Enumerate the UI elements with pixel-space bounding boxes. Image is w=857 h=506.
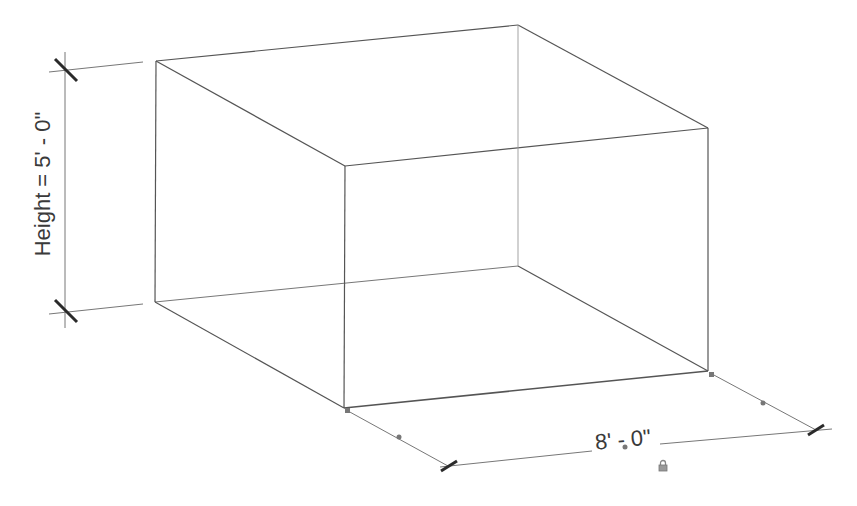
edge-vertical-back-left[interactable]: [155, 61, 156, 302]
grip-dot-icon[interactable]: [709, 372, 714, 377]
width-tick-left: [441, 461, 457, 471]
width-dimension-line-left[interactable]: [440, 451, 592, 467]
width-dimension-label[interactable]: 8' - 0": [594, 424, 652, 454]
drawing-canvas[interactable]: Height = 5' - 0" 8' - 0": [0, 0, 857, 506]
edge-bottom-front[interactable]: [344, 371, 708, 408]
edge-top-right[interactable]: [518, 25, 708, 128]
edge-bottom-left[interactable]: [155, 302, 344, 408]
edge-vertical-front-left[interactable]: [344, 166, 345, 408]
edge-top-front[interactable]: [345, 128, 708, 166]
width-dimension[interactable]: 8' - 0": [348, 374, 832, 471]
text-grip-dot-icon[interactable]: [623, 445, 628, 450]
grip-dot-icon[interactable]: [345, 408, 350, 413]
grip-dot-icon[interactable]: [397, 435, 402, 440]
height-dimension[interactable]: Height = 5' - 0": [30, 52, 143, 328]
edge-top-left[interactable]: [156, 61, 345, 166]
edge-bottom-back[interactable]: [155, 266, 518, 302]
box-wireframe[interactable]: [155, 25, 708, 408]
lock-icon[interactable]: [659, 461, 667, 472]
height-tick-top: [55, 59, 77, 81]
grip-points[interactable]: [345, 372, 766, 450]
height-dimension-label[interactable]: Height = 5' - 0": [30, 112, 55, 257]
width-dimension-line-right[interactable]: [660, 429, 832, 444]
edge-bottom-right[interactable]: [518, 266, 708, 371]
grip-dot-icon[interactable]: [761, 401, 766, 406]
edge-top-back[interactable]: [156, 25, 518, 61]
